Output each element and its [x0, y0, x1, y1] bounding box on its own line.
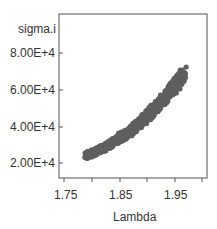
x-tick-label-185: 1.85 — [109, 188, 132, 202]
x-axis-label: Lambda — [113, 210, 156, 224]
x-tick-label-175: 1.75 — [54, 188, 77, 202]
y-tick-label-2e4: 2.00E+4 — [10, 156, 55, 170]
plot-frame — [59, 14, 207, 178]
y-tick-label-8e4: 8.00E+4 — [10, 46, 55, 60]
y-tick-label-6e4: 6.00E+4 — [10, 83, 55, 97]
y-axis-label: sigma.i — [18, 22, 56, 36]
data-points — [82, 64, 189, 160]
y-tick-label-4e4: 4.00E+4 — [10, 120, 55, 134]
y-axis-ticks — [59, 53, 63, 163]
x-axis-ticks — [64, 178, 202, 182]
x-tick-label-195: 1.95 — [164, 188, 187, 202]
